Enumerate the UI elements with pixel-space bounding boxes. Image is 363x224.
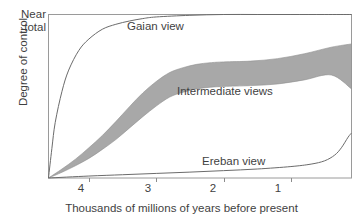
x-axis-label: Thousands of millions of years before pr… <box>0 202 363 214</box>
series-label-gaian-view: Gaian view <box>127 20 184 32</box>
x-tick-label-1: 1 <box>268 182 288 194</box>
x-axis-ticks <box>90 178 292 182</box>
series-label-intermediate-views: Intermediate views <box>177 85 273 97</box>
x-tick-label-2: 2 <box>203 182 223 194</box>
chart-figure: Near total Degree of control 4 3 2 1 Tho… <box>0 0 363 224</box>
y-axis-label: Degree of control <box>13 0 33 132</box>
y-axis-label-text: Degree of control <box>17 18 29 106</box>
x-tick-label-4: 4 <box>71 182 91 194</box>
x-tick-label-3: 3 <box>138 182 158 194</box>
series-label-ereban-view: Ereban view <box>202 155 265 167</box>
plot-area <box>0 0 363 224</box>
